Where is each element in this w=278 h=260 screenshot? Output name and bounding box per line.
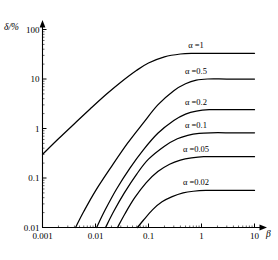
axis-ticks <box>43 30 255 228</box>
curve-alpha-0.2 <box>97 110 255 228</box>
y-axis-title: δ/% <box>4 22 19 32</box>
x-tick-label: 0.001 <box>32 231 52 241</box>
x-tick-label: 10 <box>250 231 259 241</box>
y-tick-label: 0.01 <box>24 223 40 233</box>
curve-alpha-0.02 <box>138 190 255 227</box>
series-label-alpha-0.1: α =0.1 <box>185 120 207 130</box>
y-tick-label: 0.1 <box>28 173 39 183</box>
y-tick-label: 100 <box>26 25 40 35</box>
x-tick-label: 0.1 <box>143 231 154 241</box>
series-label-alpha-0.02: α =0.02 <box>183 177 209 187</box>
x-tick-label: 1 <box>199 231 204 241</box>
series-label-alpha-0.5: α =0.5 <box>185 66 207 76</box>
curve-alpha-1 <box>43 53 255 154</box>
y-tick-label: 1 <box>35 124 40 134</box>
series-label-alpha-0.05: α =0.05 <box>183 144 209 154</box>
series-label-alpha-1: α =1 <box>188 40 204 50</box>
y-tick-label: 10 <box>31 74 40 84</box>
curve-alpha-0.1 <box>106 133 255 228</box>
data-curves <box>43 53 255 227</box>
x-axis-title: β <box>266 229 271 239</box>
curve-alpha-0.5 <box>76 79 255 228</box>
chart-container: 0.0010.010.11100.010.1110100α =1α =0.5α … <box>0 0 278 260</box>
series-label-alpha-0.2: α =0.2 <box>185 97 207 107</box>
x-tick-label: 0.01 <box>88 231 104 241</box>
plot-area <box>0 0 278 260</box>
